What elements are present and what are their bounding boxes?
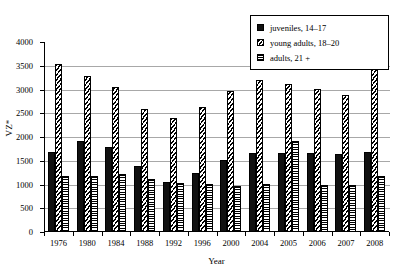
y-axis-tick-label: 2000 (16, 132, 33, 143)
bar (263, 184, 270, 232)
x-axis-tick (274, 232, 275, 236)
y-axis-tick-label: 2500 (16, 108, 33, 119)
x-axis-tick (245, 232, 246, 236)
bar (227, 91, 234, 232)
bar (148, 179, 155, 232)
bar (321, 185, 328, 232)
bar (206, 184, 213, 232)
bar (192, 173, 199, 232)
bar (141, 109, 148, 233)
y-axis-title: VZ* (4, 108, 14, 148)
bar (292, 141, 299, 232)
legend-swatch-icon (257, 24, 264, 31)
bar (62, 176, 69, 232)
bar-group (364, 42, 385, 232)
y-axis-tick-label: 3000 (16, 85, 33, 96)
x-axis-tick (102, 232, 103, 236)
bar (55, 64, 62, 232)
legend-swatch-icon (257, 39, 264, 46)
x-axis-tick (389, 232, 390, 236)
bar (84, 76, 91, 232)
bar (342, 95, 349, 232)
bar (170, 118, 177, 232)
y-axis-tick-label: 500 (20, 203, 33, 214)
bar (112, 87, 119, 232)
bar (163, 182, 170, 232)
bar (256, 80, 263, 232)
bar-group (192, 42, 213, 232)
y-axis-tick-label: 0 (29, 227, 33, 238)
bar (105, 147, 112, 233)
x-axis-tick (159, 232, 160, 236)
legend-item-label: young adults, 18–20 (270, 38, 339, 48)
bar (378, 176, 385, 232)
bar (119, 174, 126, 232)
x-axis-tick (217, 232, 218, 236)
bar (314, 89, 321, 232)
x-axis: Year 19761980198419881992199620002004200… (44, 232, 389, 280)
legend-item[interactable]: juveniles, 14–17 (257, 20, 383, 35)
bar (91, 176, 98, 232)
x-axis-title: Year (44, 256, 389, 266)
chart-container: VZ* 05001000150020002500300035004000 Yea… (0, 0, 398, 280)
bar (234, 186, 241, 232)
x-axis-tick (130, 232, 131, 236)
bar-group (105, 42, 126, 232)
bar-group (134, 42, 155, 232)
bar-group (278, 42, 299, 232)
bars-layer (44, 42, 389, 232)
bar (371, 64, 378, 232)
y-axis-tick-label: 1500 (16, 156, 33, 167)
bar (220, 160, 227, 232)
y-axis-tick-label: 3500 (16, 61, 33, 72)
x-axis-tick (332, 232, 333, 236)
bar (48, 152, 55, 232)
bar-group (249, 42, 270, 232)
x-axis-tick (73, 232, 74, 236)
legend-item[interactable]: young adults, 18–20 (257, 35, 383, 50)
bar-group (48, 42, 69, 232)
bar-group (307, 42, 328, 232)
bar (134, 166, 141, 232)
bar (335, 154, 342, 232)
legend-item-label: juveniles, 14–17 (270, 23, 326, 33)
bar-group (220, 42, 241, 232)
bar (249, 153, 256, 232)
bar (364, 152, 371, 232)
legend-swatch-icon (257, 54, 264, 61)
bar (199, 107, 206, 232)
y-axis-tick-label: 1000 (16, 180, 33, 191)
x-axis-tick (44, 232, 45, 236)
chart-legend: juveniles, 14–17young adults, 18–20adult… (250, 15, 389, 70)
bar (285, 84, 292, 232)
x-axis-tick (303, 232, 304, 236)
bar (278, 153, 285, 232)
bar (177, 183, 184, 232)
y-axis-tick-label: 4000 (16, 37, 33, 48)
x-axis-tick-label: 2008 (358, 238, 392, 248)
bar (307, 153, 314, 232)
bar-group (163, 42, 184, 232)
legend-item[interactable]: adults, 21 + (257, 50, 383, 65)
bar (77, 141, 84, 232)
bar-group (335, 42, 356, 232)
bar (349, 185, 356, 233)
x-axis-tick (188, 232, 189, 236)
bar-group (77, 42, 98, 232)
legend-item-label: adults, 21 + (270, 53, 310, 63)
x-axis-tick (360, 232, 361, 236)
